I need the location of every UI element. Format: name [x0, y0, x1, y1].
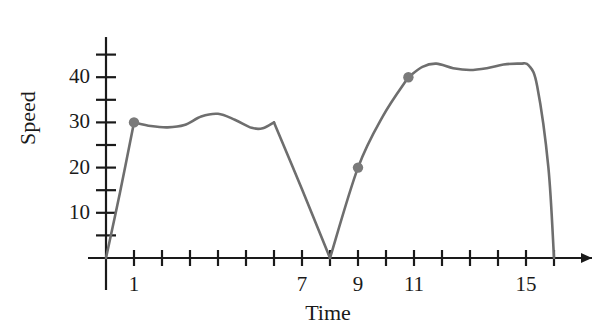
y-tick-label: 40 [40, 64, 90, 89]
ticks-group [96, 55, 554, 266]
x-axis-arrow-icon [581, 253, 592, 263]
axes-group [88, 37, 592, 290]
x-tick-label: 1 [109, 272, 159, 297]
x-axis-title: Time [268, 300, 388, 326]
x-tick-label: 15 [501, 272, 551, 297]
x-tick-label: 11 [389, 272, 439, 297]
y-axis-title: Speed [15, 68, 41, 168]
data-point-marker [129, 117, 139, 127]
data-point-marker [353, 162, 363, 172]
data-point-marker [403, 72, 413, 82]
x-tick-label: 9 [333, 272, 383, 297]
data-curve-group [106, 63, 554, 258]
data-curve-segment [274, 122, 330, 258]
speed-time-chart: Speed Time 10203040 1791115 [0, 0, 613, 333]
y-tick-label: 10 [40, 200, 90, 225]
data-markers-group [129, 72, 414, 173]
data-curve-segment [330, 77, 408, 258]
y-tick-label: 20 [40, 155, 90, 180]
x-tick-label: 7 [277, 272, 327, 297]
y-tick-label: 30 [40, 109, 90, 134]
data-curve-segment [134, 114, 274, 129]
data-curve-segment [408, 63, 554, 258]
